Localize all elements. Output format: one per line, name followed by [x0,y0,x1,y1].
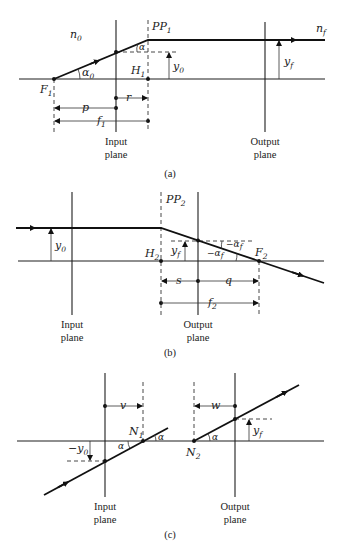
alpha-f-arc-top [221,241,222,249]
ray-output-intersection [233,417,237,421]
label-pp2: PP2 [165,193,186,208]
label-alpha-input: α [118,441,124,451]
output-plane-label: Output [183,319,212,330]
label-h2: H2 [144,247,160,262]
ray-arrow [292,272,303,276]
output-plane-label: Output [250,136,279,147]
panel-a: n0 nf PP1 F1 H1 α0 α y0 yf p r f1 Input … [19,20,327,180]
output-plane-label: plane [187,332,210,343]
label-n1: N1 [128,425,143,440]
label-r: r [126,91,132,104]
alpha0-arc [78,69,80,79]
label-yf: yf [170,244,181,259]
label-nf: nf [316,22,327,37]
label-f1-dist: f1 [96,114,106,129]
label-y0: y0 [54,239,66,254]
label-f2: F2 [254,246,268,261]
input-plane-label: plane [94,514,117,525]
panel-c: N1 N2 α α α −y0 yf v w Input plane Outpu… [17,373,324,541]
label-w: w [211,399,221,412]
panel-b: PP2 H2 F2 y0 yf −αf −αf s q f2 Input pla… [16,192,324,359]
ray-input-intersection [114,50,118,54]
input-plane-label: Input [94,501,116,512]
label-alpha-n1: α [158,432,164,442]
label-n2: N2 [185,446,201,461]
label-alpha: α [139,42,145,52]
caption-a: (a) [164,168,176,180]
output-plane-label: Output [220,501,249,512]
alpha-arc-n1 [155,435,157,441]
alpha-arc-n2 [208,434,210,442]
alpha-f-arc [236,254,237,262]
label-v: v [120,399,127,412]
optics-figure: n0 nf PP1 F1 H1 α0 α y0 yf p r f1 Input … [0,0,343,544]
label-alpha-n2: α [212,432,218,442]
focal-point-f1 [52,77,56,81]
input-plane-label: Input [61,319,83,330]
label-h1: H1 [130,64,145,79]
output-plane-label: plane [254,149,277,160]
caption-c: (c) [164,529,176,541]
input-plane-label: plane [61,332,84,343]
label-y0: y0 [172,60,184,75]
label-n0: n0 [70,28,82,43]
input-plane-label: Input [105,136,127,147]
label-yf: yf [252,424,263,439]
output-plane-label: plane [224,514,247,525]
label-alpha0: α0 [82,66,94,81]
label-p: p [82,101,89,114]
principal-point-h2 [159,259,163,263]
principal-point-h1 [146,77,150,81]
ray-output-intersection [196,239,200,243]
label-f1: F1 [39,83,52,98]
label-pp1: PP1 [151,20,172,35]
label-q: q [225,274,232,287]
ray [16,228,324,283]
caption-b: (b) [164,347,177,359]
label-neg-y0: −y0 [68,442,88,457]
ray-arrow [276,391,287,397]
ray-arrow [58,482,68,487]
ray-input-intersection [103,459,107,463]
nodal-point-n2 [192,439,196,443]
input-plane-label: plane [105,149,128,160]
label-alpha-f: −αf [207,248,225,260]
label-alpha-f-top: −αf [226,239,244,251]
ray-arrow [90,61,99,65]
label-s: s [176,274,182,287]
alpha-arc-input [128,441,130,448]
label-f2-dist: f2 [207,296,217,311]
label-yf: yf [283,55,294,70]
focal-point-f2 [257,259,261,263]
